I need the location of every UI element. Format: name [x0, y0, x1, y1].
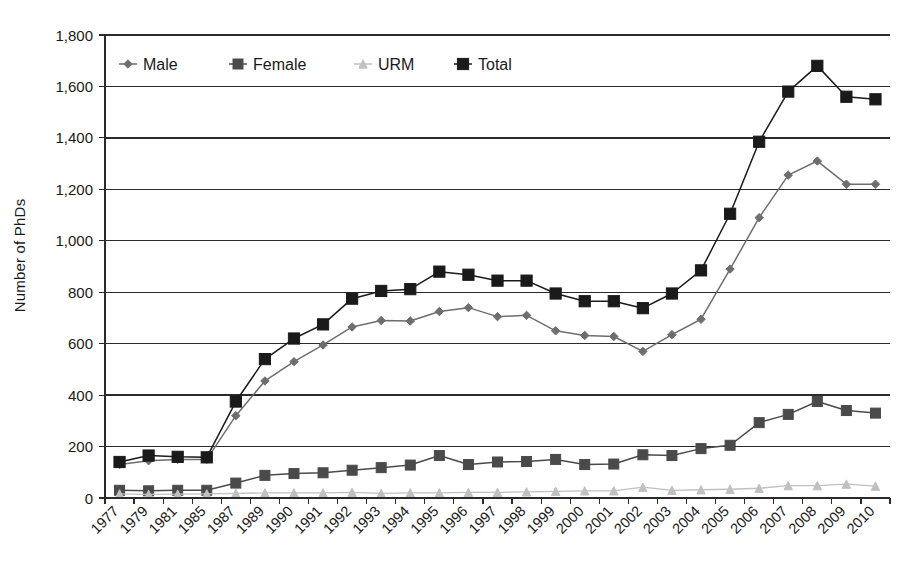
- x-tick-label: 1999: [524, 503, 558, 537]
- data-point-total: [841, 91, 852, 102]
- data-point-male: [348, 323, 356, 331]
- x-axis-ticks: [105, 498, 890, 504]
- y-tick-label: 1,000: [55, 232, 93, 249]
- data-point-female: [754, 418, 764, 428]
- data-point-male: [668, 330, 676, 338]
- x-tick-label: 2002: [611, 503, 645, 537]
- data-series: [114, 60, 881, 498]
- legend-label-male: Male: [143, 56, 178, 73]
- chart-svg: 02004006008001,0001,2001,4001,6001,800 1…: [0, 0, 912, 581]
- x-tick-label: 2005: [698, 503, 732, 537]
- x-tick-label: 1987: [204, 503, 238, 537]
- data-point-male: [871, 180, 879, 188]
- data-point-total: [870, 94, 881, 105]
- data-point-female: [783, 409, 793, 419]
- x-tick-label: 1991: [291, 503, 325, 537]
- data-point-total: [143, 450, 154, 461]
- x-tick-label: 2003: [640, 503, 674, 537]
- x-tick-label: 1989: [233, 503, 267, 537]
- x-tick-label: 1993: [349, 503, 383, 537]
- data-point-female: [725, 440, 735, 450]
- x-axis-tick-labels: 1977197919811985198719891990199119921993…: [88, 503, 878, 537]
- data-point-male: [435, 307, 443, 315]
- legend-marker-total: [457, 58, 468, 69]
- data-point-male: [610, 332, 618, 340]
- series-total: [114, 60, 881, 467]
- data-point-female: [580, 460, 590, 470]
- legend-marker-female: [233, 59, 243, 69]
- phd-trend-chart: Number of PhDs 02004006008001,0001,2001,…: [0, 0, 912, 581]
- data-point-male: [464, 303, 472, 311]
- x-tick-label: 2001: [582, 503, 616, 537]
- x-tick-label: 2010: [843, 503, 877, 537]
- data-point-total: [492, 275, 503, 286]
- data-point-total: [405, 284, 416, 295]
- x-tick-label: 1981: [146, 503, 180, 537]
- data-point-male: [377, 316, 385, 324]
- gridlines: [105, 35, 890, 447]
- data-point-male: [522, 311, 530, 319]
- data-point-male: [697, 315, 705, 323]
- data-point-female: [289, 469, 299, 479]
- data-point-total: [695, 265, 706, 276]
- data-point-male: [406, 317, 414, 325]
- data-point-total: [521, 275, 532, 286]
- y-tick-label: 1,800: [55, 27, 93, 44]
- data-point-total: [637, 303, 648, 314]
- legend-label-female: Female: [253, 56, 306, 73]
- chart-legend: MaleFemaleURMTotal: [119, 56, 512, 73]
- data-point-total: [666, 288, 677, 299]
- data-point-total: [579, 296, 590, 307]
- data-point-male: [726, 265, 734, 273]
- x-tick-label: 2007: [756, 503, 790, 537]
- x-tick-label: 1997: [465, 503, 499, 537]
- data-point-male: [639, 347, 647, 355]
- data-point-total: [288, 333, 299, 344]
- y-tick-label: 200: [68, 438, 93, 455]
- plot-area-wrapper: 02004006008001,0001,2001,4001,6001,800 1…: [0, 0, 912, 581]
- data-point-female: [609, 459, 619, 469]
- x-tick-label: 1977: [88, 503, 122, 537]
- data-point-female: [696, 444, 706, 454]
- data-point-female: [667, 451, 677, 461]
- data-point-male: [551, 327, 559, 335]
- x-tick-label: 1996: [436, 503, 470, 537]
- data-point-female: [347, 465, 357, 475]
- legend-label-urm: URM: [378, 56, 414, 73]
- data-point-female: [318, 468, 328, 478]
- data-point-total: [317, 319, 328, 330]
- data-point-total: [230, 396, 241, 407]
- data-point-male: [493, 312, 501, 320]
- data-point-male: [784, 171, 792, 179]
- y-tick-label: 800: [68, 284, 93, 301]
- data-point-female: [551, 454, 561, 464]
- x-tick-label: 1998: [495, 503, 529, 537]
- y-tick-label: 600: [68, 335, 93, 352]
- legend-marker-male: [124, 60, 132, 68]
- data-point-total: [201, 452, 212, 463]
- data-point-female: [870, 408, 880, 418]
- data-point-female: [231, 478, 241, 488]
- y-axis-tick-labels: 02004006008001,0001,2001,4001,6001,800: [55, 27, 93, 507]
- data-point-male: [290, 357, 298, 365]
- x-tick-label: 1995: [407, 503, 441, 537]
- data-point-male: [755, 213, 763, 221]
- data-point-total: [259, 354, 270, 365]
- y-tick-label: 1,400: [55, 129, 93, 146]
- x-tick-label: 1994: [378, 503, 412, 537]
- x-tick-label: 1992: [320, 503, 354, 537]
- data-point-female: [812, 397, 822, 407]
- data-point-total: [463, 269, 474, 280]
- y-tick-label: 0: [85, 490, 93, 507]
- data-point-total: [347, 293, 358, 304]
- data-point-total: [434, 266, 445, 277]
- y-tick-label: 1,600: [55, 78, 93, 95]
- x-tick-label: 2008: [785, 503, 819, 537]
- data-point-male: [319, 341, 327, 349]
- legend-label-total: Total: [478, 56, 512, 73]
- x-tick-label: 1990: [262, 503, 296, 537]
- x-tick-label: 2000: [553, 503, 587, 537]
- data-point-total: [754, 136, 765, 147]
- data-point-total: [172, 451, 183, 462]
- data-point-total: [114, 456, 125, 467]
